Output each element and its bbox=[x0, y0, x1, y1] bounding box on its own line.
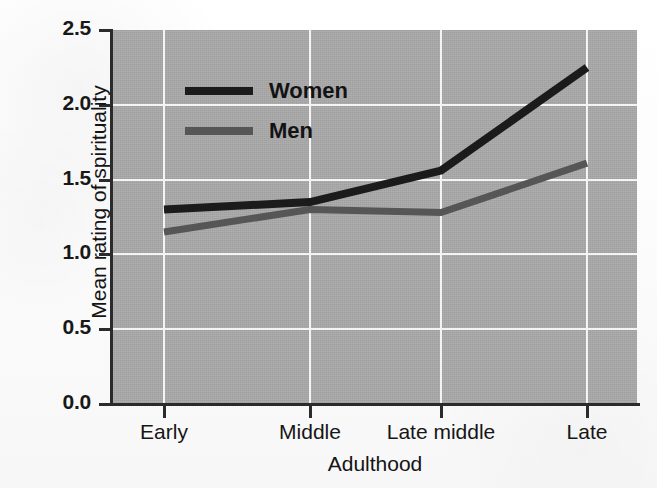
legend-swatch-women bbox=[185, 87, 253, 95]
y-axis-title: Mean rating of spirituality bbox=[87, 37, 111, 367]
x-axis-tick bbox=[309, 405, 312, 418]
x-axis-title: Adulthood bbox=[113, 452, 637, 476]
legend-item-men: Men bbox=[185, 118, 313, 144]
legend-item-women: Women bbox=[185, 78, 348, 104]
x-axis-line bbox=[110, 403, 640, 406]
x-axis-tick-label: Late middle bbox=[387, 420, 496, 444]
chart-screenshot: Women Men 0.00.51.01.52.02.5 EarlyMiddle… bbox=[0, 0, 657, 488]
plot-area: Women Men bbox=[113, 30, 637, 404]
x-axis-tick bbox=[586, 405, 589, 418]
x-axis-tick bbox=[440, 405, 443, 418]
legend-label-women: Women bbox=[269, 78, 348, 104]
legend-swatch-men bbox=[185, 127, 253, 135]
line-series-men bbox=[164, 163, 587, 232]
x-axis-tick bbox=[163, 405, 166, 418]
y-axis-tick bbox=[99, 403, 111, 406]
y-axis-tick bbox=[99, 29, 111, 32]
y-axis-tick-label: 0.0 bbox=[62, 390, 91, 414]
legend-label-men: Men bbox=[269, 118, 313, 144]
x-axis-tick-label: Early bbox=[140, 420, 188, 444]
x-axis-tick-label: Late bbox=[567, 420, 608, 444]
x-axis-tick-label: Middle bbox=[279, 420, 341, 444]
